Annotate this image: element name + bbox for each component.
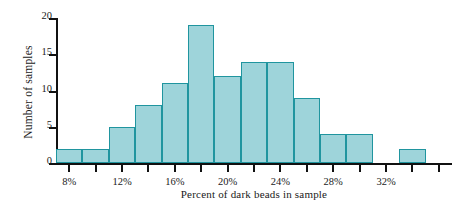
histogram-bar (188, 25, 214, 163)
histogram-figure: Number of samples 05101520 8%12%16%20%24… (0, 0, 458, 209)
x-tick-mark (385, 163, 387, 172)
x-tick-mark (253, 163, 255, 172)
histogram-bar (346, 134, 372, 163)
y-tick-label: 0 (47, 155, 52, 166)
y-tick-label: 20 (42, 10, 53, 21)
x-tick-mark (147, 163, 149, 172)
x-tick-mark (411, 163, 413, 172)
histogram-bar (162, 83, 188, 163)
histogram-bar (214, 76, 240, 163)
y-tick-label: 10 (42, 83, 53, 94)
plot-area: 05101520 8%12%16%20%24%28%32% (56, 18, 452, 164)
x-tick-mark (438, 163, 440, 172)
histogram-bar (135, 105, 161, 163)
y-tick-label: 5 (47, 119, 52, 130)
histogram-bar (294, 98, 320, 163)
histogram-bar (320, 134, 346, 163)
histogram-bar (399, 149, 425, 164)
x-tick-mark (359, 163, 361, 172)
x-tick-label: 20% (218, 176, 237, 187)
x-tick-label: 8% (62, 176, 76, 187)
x-tick-mark (227, 163, 229, 172)
x-tick-label: 28% (324, 176, 343, 187)
histogram-bar (56, 149, 82, 164)
x-tick-mark (95, 163, 97, 172)
y-axis-label: Number of samples (22, 17, 34, 167)
x-tick-mark (332, 163, 334, 172)
y-tick-label: 15 (42, 46, 53, 57)
histogram-bar (267, 62, 293, 164)
x-tick-label: 16% (165, 176, 184, 187)
x-tick-mark (174, 163, 176, 172)
histogram-bar (241, 62, 267, 164)
histogram-bar (82, 149, 108, 164)
x-tick-mark (200, 163, 202, 172)
x-tick-label: 24% (271, 176, 290, 187)
x-tick-mark (279, 163, 281, 172)
x-tick-label: 12% (112, 176, 131, 187)
histogram-bar (109, 127, 135, 163)
x-tick-mark (306, 163, 308, 172)
x-tick-mark (68, 163, 70, 172)
x-tick-label: 32% (376, 176, 395, 187)
x-tick-mark (121, 163, 123, 172)
x-axis-label: Percent of dark beads in sample (56, 188, 452, 200)
